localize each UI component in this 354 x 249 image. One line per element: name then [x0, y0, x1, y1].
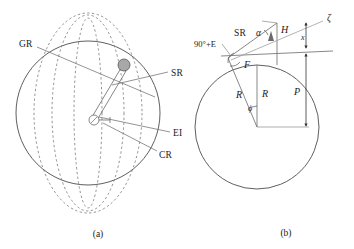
label-r-left: R	[235, 89, 242, 100]
meridian-ellipse-outer	[34, 13, 142, 213]
label-h: H	[280, 24, 289, 35]
label-elevation-angle: 90°+E	[194, 39, 216, 49]
panel-a: GR SR EI CR (a)	[16, 13, 183, 240]
label-f: F	[243, 59, 251, 70]
label-zeta: ζ	[327, 13, 332, 24]
meridian-ellipse-mid	[52, 15, 124, 211]
range-tube	[92, 68, 126, 120]
label-phi: ϕ	[248, 104, 252, 113]
meridian-ellipse-inner	[74, 18, 102, 208]
panel-b: SR α H ζ x 90°+E F R R P ϕ (b)	[194, 13, 333, 239]
label-r-mid: R	[261, 88, 268, 99]
label-sr-b: SR	[234, 28, 246, 38]
geometry-figure: GR SR EI CR (a)	[0, 0, 354, 249]
caption-panel-b: (b)	[280, 228, 291, 239]
label-sr-a: SR	[171, 68, 183, 78]
caption-panel-a: (a)	[93, 229, 104, 240]
sphere-outline	[16, 41, 160, 185]
radius-slant-line	[228, 58, 257, 127]
label-x: x	[300, 33, 305, 42]
apex-top-edge	[262, 21, 277, 23]
label-alpha: α	[256, 28, 262, 38]
label-gr: GR	[19, 39, 33, 49]
leader-line-elevation	[222, 44, 231, 56]
label-p: P	[293, 86, 300, 97]
angle-wedge-alpha	[268, 31, 274, 41]
label-cr: CR	[159, 150, 173, 160]
satellite-marker	[118, 59, 130, 71]
leader-line-sr	[112, 72, 168, 85]
figure-page: GR SR EI CR (a)	[0, 0, 354, 249]
label-ei: EI	[173, 128, 182, 138]
